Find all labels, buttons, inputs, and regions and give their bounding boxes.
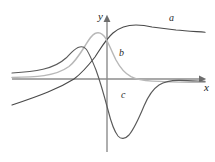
curve-label-a: a (169, 13, 174, 23)
x-axis-label: x (204, 82, 209, 93)
curve-label-b: b (119, 48, 124, 58)
curve-label-c: c (121, 90, 125, 100)
y-axis-label: y (98, 11, 103, 22)
curve-a-path (12, 25, 205, 105)
function-graph-figure: y x a b c (0, 0, 215, 162)
plot-canvas (0, 0, 215, 162)
curve-b-path (12, 33, 205, 82)
curves-group (12, 25, 205, 138)
curve-c-path (12, 47, 205, 139)
